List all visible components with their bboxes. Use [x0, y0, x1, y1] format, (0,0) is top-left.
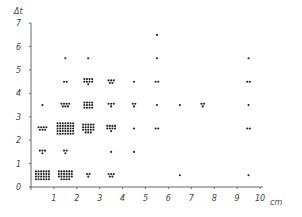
data-point	[133, 151, 135, 153]
data-point	[67, 127, 69, 129]
data-point	[66, 173, 68, 175]
data-point	[109, 125, 111, 127]
data-point	[70, 122, 72, 124]
data-point	[92, 126, 94, 128]
data-point	[83, 81, 85, 83]
data-point	[155, 81, 157, 83]
data-point	[111, 82, 113, 84]
y-tick-label: 6	[16, 43, 21, 52]
data-point	[58, 176, 60, 178]
data-point	[63, 173, 65, 175]
data-point	[113, 103, 115, 105]
point-cluster	[108, 173, 115, 178]
data-point	[66, 103, 68, 105]
data-point	[62, 122, 64, 124]
data-point	[60, 170, 62, 172]
data-point	[90, 129, 92, 131]
data-point	[106, 127, 108, 129]
point-cluster	[132, 103, 137, 108]
x-tick-label: 3	[97, 194, 102, 203]
data-point	[64, 127, 66, 129]
data-point	[48, 178, 50, 180]
data-point	[59, 122, 61, 124]
data-point	[157, 81, 159, 83]
data-point	[156, 57, 158, 59]
x-axis-title: cm	[270, 198, 282, 207]
data-point	[63, 150, 65, 152]
data-point	[108, 173, 110, 175]
data-point	[90, 131, 92, 133]
data-point	[64, 105, 66, 107]
x-tick-label: 5	[143, 194, 148, 203]
y-tick-label: 0	[16, 183, 21, 192]
data-point	[57, 122, 59, 124]
data-point	[66, 170, 68, 172]
data-point	[86, 107, 88, 109]
point-cluster	[179, 174, 181, 176]
point-cluster	[108, 79, 115, 84]
point-cluster	[57, 122, 75, 135]
scatter-plot: 1234567891001234567 Δt cm	[0, 0, 302, 217]
data-point	[156, 34, 158, 36]
data-point	[108, 103, 110, 105]
point-cluster	[155, 127, 160, 129]
data-point	[62, 125, 64, 127]
data-point	[113, 173, 115, 175]
x-tick-label: 10	[255, 194, 265, 203]
data-point	[35, 170, 37, 172]
data-point	[109, 82, 111, 84]
data-point	[92, 124, 94, 126]
point-cluster	[87, 57, 89, 59]
data-point	[67, 122, 69, 124]
data-point	[68, 176, 70, 178]
data-point	[59, 127, 61, 129]
data-point	[248, 57, 250, 59]
data-point	[87, 176, 89, 178]
x-tick-label: 1	[51, 194, 56, 203]
data-point	[72, 133, 74, 135]
data-point	[72, 125, 74, 127]
data-point	[248, 104, 250, 106]
data-point	[110, 173, 112, 175]
data-point	[83, 104, 85, 106]
data-point	[82, 129, 84, 131]
data-point	[91, 78, 93, 80]
data-point	[89, 107, 91, 109]
data-point	[62, 127, 64, 129]
y-tick-label: 2	[16, 136, 21, 145]
data-point	[85, 124, 87, 126]
data-point	[71, 170, 73, 172]
data-point	[72, 127, 74, 129]
data-point	[59, 133, 61, 135]
data-point	[39, 129, 41, 131]
data-point	[57, 133, 59, 135]
data-point	[248, 174, 250, 176]
data-point	[111, 176, 113, 178]
data-point	[133, 127, 135, 129]
data-point	[40, 126, 42, 128]
data-point	[200, 103, 202, 105]
data-point	[66, 178, 68, 180]
data-point	[133, 105, 135, 107]
y-tick-label: 3	[16, 113, 21, 122]
data-point	[91, 101, 93, 103]
data-point	[44, 129, 46, 131]
data-point	[41, 150, 43, 152]
data-point	[203, 103, 205, 105]
data-point	[57, 125, 59, 127]
data-point	[35, 176, 37, 178]
data-point	[59, 125, 61, 127]
point-cluster	[248, 57, 250, 59]
data-point	[66, 81, 68, 83]
point-cluster	[35, 170, 50, 180]
data-point	[38, 170, 40, 172]
data-point	[35, 178, 37, 180]
data-point	[249, 81, 251, 83]
axes: 1234567891001234567	[16, 19, 265, 203]
data-point	[86, 173, 88, 175]
data-point	[72, 130, 74, 132]
point-cluster	[63, 81, 68, 83]
data-point	[45, 173, 47, 175]
data-point	[63, 103, 65, 105]
data-point	[89, 173, 91, 175]
